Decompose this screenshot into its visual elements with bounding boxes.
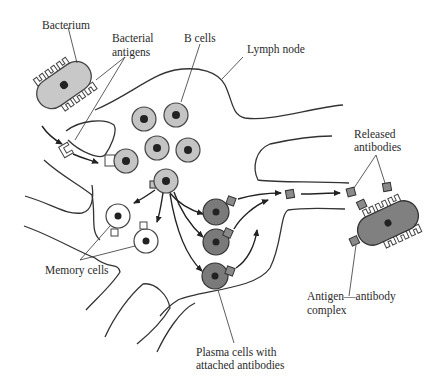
label-bacterial-antigens-line2: antigens bbox=[112, 46, 151, 59]
label-lymph-node: Lymph node bbox=[247, 43, 305, 56]
label-plasma-cells-line1: Plasma cells with bbox=[196, 346, 277, 358]
plasma-cells bbox=[202, 196, 236, 289]
diagram-canvas: Bacterium Bacterial antigens B cells Lym… bbox=[0, 0, 437, 384]
label-complex-line1: Antigen—antibody bbox=[307, 290, 396, 303]
antibody-release-arrows bbox=[234, 193, 340, 268]
free-antigen bbox=[59, 142, 74, 157]
label-released-antibodies-line1: Released bbox=[354, 128, 396, 140]
label-bacterial-antigens-line1: Bacterial bbox=[112, 32, 154, 44]
label-b-cells: B cells bbox=[184, 32, 216, 44]
bacterium bbox=[27, 50, 101, 120]
label-memory-cells: Memory cells bbox=[45, 264, 109, 277]
b-cell-cluster bbox=[105, 103, 200, 193]
released-antibodies bbox=[285, 182, 391, 198]
immune-response-diagram: Bacterium Bacterial antigens B cells Lym… bbox=[0, 0, 437, 384]
arrow-antigen-release bbox=[42, 126, 62, 144]
label-released-antibodies-line2: antibodies bbox=[354, 141, 402, 153]
label-complex-line2: complex bbox=[307, 304, 347, 317]
memory-cells bbox=[106, 204, 158, 253]
label-plasma-cells-line2: attached antibodies bbox=[196, 359, 285, 371]
label-bacterium: Bacterium bbox=[42, 19, 90, 31]
